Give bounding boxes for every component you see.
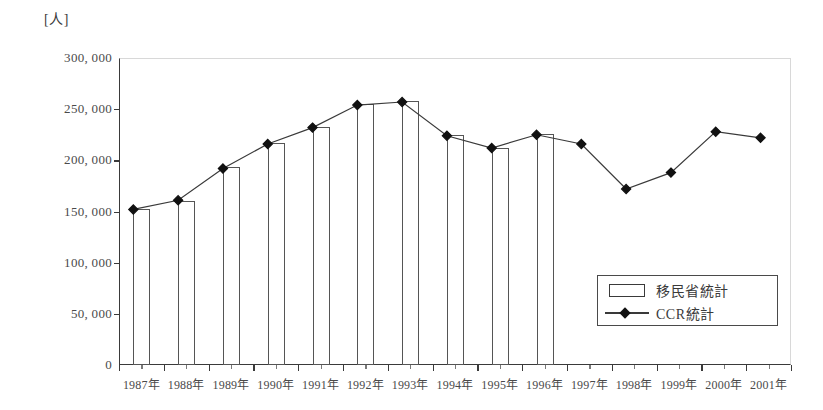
x-axis-tick-mark (253, 365, 254, 371)
y-axis-tick-label: 100, 000 (64, 255, 112, 271)
x-axis-minor-tick-mark (186, 365, 187, 369)
x-axis-tick-mark (477, 365, 478, 371)
y-axis-tick-mark (114, 160, 120, 161)
y-axis-tick-label: 250, 000 (64, 101, 112, 117)
x-axis-minor-tick-mark (500, 365, 501, 369)
x-axis-tick-label: 2000年 (705, 375, 742, 393)
x-axis-tick-label: 1988年 (168, 375, 205, 393)
x-axis-tick-label: 1999年 (661, 375, 698, 393)
bar (357, 104, 374, 365)
x-axis-tick-mark (119, 365, 120, 371)
x-axis-tick-label: 1989年 (213, 375, 250, 393)
x-axis-tick-mark (298, 365, 299, 371)
x-axis-minor-tick-mark (634, 365, 635, 369)
x-axis-minor-tick-mark (769, 365, 770, 369)
x-axis-minor-tick-mark (276, 365, 277, 369)
x-axis-tick-label: 1998年 (616, 375, 653, 393)
legend-item-immigration: 移民省統計 (598, 278, 777, 302)
legend-bar-swatch-icon (598, 284, 656, 297)
x-axis-minor-tick-mark (724, 365, 725, 369)
x-axis-tick-label: 1990年 (257, 375, 294, 393)
legend-item-ccr: CCR統計 (598, 301, 777, 325)
x-axis-tick-mark (433, 365, 434, 371)
x-axis-tick-label: 1987年 (123, 375, 160, 393)
x-axis-tick-mark (701, 365, 702, 371)
y-axis-tick-mark (114, 263, 120, 264)
bar (447, 135, 464, 365)
y-axis-tick-label: 200, 000 (64, 152, 112, 168)
legend-label-immigration: 移民省統計 (656, 280, 729, 300)
x-axis-tick-label: 1994年 (437, 375, 474, 393)
bar (268, 143, 285, 365)
x-axis-tick-mark (657, 365, 658, 371)
x-axis-tick-mark (791, 365, 792, 371)
x-axis-tick-label: 1991年 (302, 375, 339, 393)
x-axis-minor-tick-mark (321, 365, 322, 369)
x-axis-tick-label: 1992年 (347, 375, 384, 393)
x-axis-minor-tick-mark (545, 365, 546, 369)
x-axis-tick-mark (164, 365, 165, 371)
bar (402, 101, 419, 365)
y-axis-tick-labels: 050, 000100, 000150, 000200, 000250, 000… (24, 0, 112, 410)
bar (223, 167, 240, 365)
x-axis-minor-tick-mark (589, 365, 590, 369)
bar (178, 201, 195, 365)
x-axis-minor-tick-mark (231, 365, 232, 369)
bar (133, 209, 150, 365)
y-axis-tick-label: 0 (105, 357, 112, 373)
x-axis-tick-mark (567, 365, 568, 371)
y-axis-tick-label: 300, 000 (64, 50, 112, 66)
x-axis-tick-mark (209, 365, 210, 371)
chart-container: [人] 050, 000100, 000150, 000200, 000250,… (0, 0, 823, 410)
x-axis-minor-tick-mark (365, 365, 366, 369)
legend-label-ccr: CCR統計 (656, 303, 715, 323)
chart-legend: 移民省統計 CCR統計 (597, 275, 778, 326)
x-axis-tick-label: 1997年 (571, 375, 608, 393)
x-axis-minor-tick-mark (679, 365, 680, 369)
x-axis-tick-label: 1996年 (526, 375, 563, 393)
x-axis-tick-mark (612, 365, 613, 371)
bar (313, 127, 330, 365)
x-axis-minor-tick-mark (141, 365, 142, 369)
y-axis-tick-label: 50, 000 (71, 306, 112, 322)
x-axis-tick-mark (343, 365, 344, 371)
legend-line-diamond-icon (598, 307, 656, 319)
x-axis-minor-tick-mark (410, 365, 411, 369)
y-axis-tick-mark (114, 212, 120, 213)
x-axis-minor-tick-mark (455, 365, 456, 369)
bar (537, 134, 554, 365)
x-axis-tick-label: 1995年 (481, 375, 518, 393)
y-axis-tick-mark (114, 314, 120, 315)
x-axis-tick-label: 1993年 (392, 375, 429, 393)
x-axis-tick-mark (388, 365, 389, 371)
y-axis-tick-mark (114, 109, 120, 110)
x-axis-tick-mark (746, 365, 747, 371)
x-axis-tick-label: 2001年 (750, 375, 787, 393)
bar (492, 148, 509, 365)
x-axis-tick-mark (522, 365, 523, 371)
y-axis-tick-label: 150, 000 (64, 204, 112, 220)
